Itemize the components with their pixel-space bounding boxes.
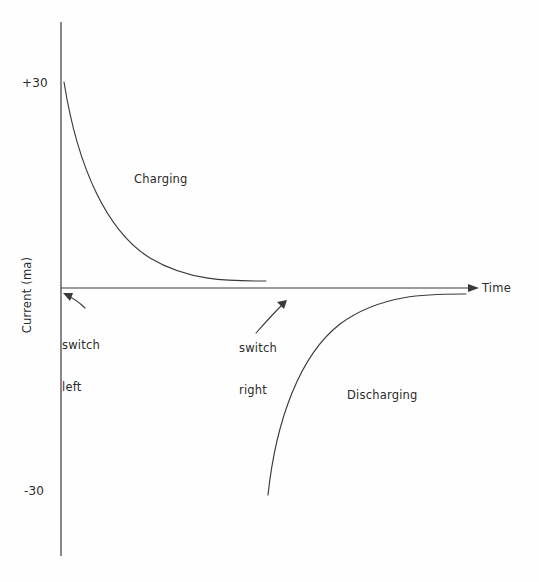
charging-region-label: Charging (134, 172, 188, 186)
discharging-region-label: Discharging (347, 388, 418, 402)
switch-right-annotation-line2: right (239, 383, 277, 397)
y-axis-tick-label-negative-30: -30 (24, 484, 44, 498)
y-axis-tick-label-positive-30: +30 (22, 76, 48, 90)
x-axis-arrowhead-icon (468, 284, 479, 292)
switch-right-annotation: switch right (239, 313, 277, 425)
chart-plot-area (0, 0, 539, 582)
y-axis-title: Current (ma) (20, 249, 34, 341)
switch-left-arrowhead-icon (63, 293, 73, 301)
current-vs-time-chart: +30 -30 Current (ma) Time Charging Disch… (0, 0, 539, 582)
x-axis-title: Time (482, 281, 511, 295)
switch-right-arrowhead-icon (277, 300, 287, 309)
switch-left-annotation: switch left (62, 310, 100, 422)
switch-right-annotation-line1: switch (239, 341, 277, 355)
switch-left-annotation-line2: left (62, 380, 100, 394)
switch-left-annotation-line1: switch (62, 338, 100, 352)
